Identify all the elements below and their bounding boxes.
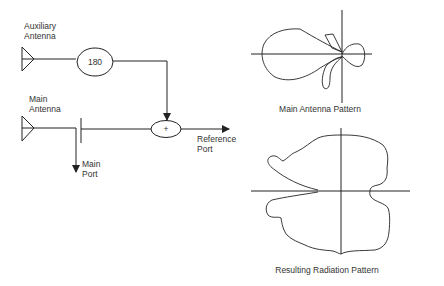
phase-shifter-label: 180 xyxy=(88,57,102,67)
aux-to-summer-arrow xyxy=(113,61,167,120)
back-lobe xyxy=(342,44,365,67)
auxiliary-antenna-label-1: Auxiliary xyxy=(24,21,57,31)
result-lower-lobe xyxy=(266,191,389,254)
upper-side-lobe xyxy=(325,34,342,52)
main-port-label-2: Port xyxy=(82,169,98,179)
summer-label: + xyxy=(164,124,169,134)
reference-port-label-1: Reference xyxy=(197,134,236,144)
main-antenna-label-2: Antenna xyxy=(29,104,61,114)
auxiliary-antenna-icon xyxy=(22,47,34,71)
main-antenna-icon xyxy=(22,116,34,141)
resulting-radiation-pattern xyxy=(251,128,410,254)
result-upper-lobe xyxy=(268,135,388,191)
main-antenna-pattern xyxy=(251,10,372,103)
reference-port-label-2: Port xyxy=(197,144,213,154)
result-pattern-caption: Resulting Radiation Pattern xyxy=(275,265,379,275)
main-port-label-1: Main xyxy=(82,159,101,169)
main-antenna-label-1: Main xyxy=(29,94,48,104)
auxiliary-antenna-label-2: Antenna xyxy=(24,31,56,41)
main-pattern-caption: Main Antenna Pattern xyxy=(279,104,361,114)
main-port-arrow xyxy=(34,128,76,172)
diagram-canvas: Auxiliary Antenna 180 Main Antenna Main … xyxy=(0,0,444,286)
lower-side-lobe xyxy=(322,57,342,89)
